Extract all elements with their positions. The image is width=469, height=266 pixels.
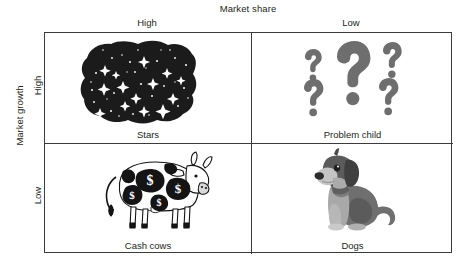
- x-axis-label-low: Low: [250, 17, 452, 28]
- question-marks-icon: [299, 36, 409, 126]
- y-axis-title: Market growth: [14, 61, 25, 171]
- quadrant-label-cash-cows: Cash cows: [45, 240, 251, 251]
- quadrant-problem-child[interactable]: Problem child: [252, 33, 453, 143]
- quadrant-label-stars: Stars: [45, 129, 251, 140]
- bcg-matrix: Market share High Low Market growth High…: [0, 0, 469, 266]
- svg-text:$: $: [175, 181, 182, 196]
- y-axis-label-low: Low: [32, 156, 43, 236]
- quadrant-dogs[interactable]: Dogs: [252, 145, 453, 254]
- x-axis-title: Market share: [44, 3, 452, 14]
- quadrant-label-problem-child: Problem child: [252, 129, 453, 140]
- quadrant-label-dogs: Dogs: [252, 240, 453, 251]
- svg-text:$: $: [129, 189, 135, 201]
- starry-night-blob-icon: [78, 38, 204, 126]
- sitting-dog-icon: [310, 146, 402, 236]
- quadrant-cash-cows[interactable]: $ $ $ $ Cash cows: [45, 145, 251, 254]
- y-axis-label-high: High: [32, 46, 43, 126]
- matrix-grid: Stars: [44, 32, 452, 253]
- x-axis-label-high: High: [44, 17, 250, 28]
- dollar-spotted-cow-icon: $ $ $ $: [99, 147, 217, 235]
- svg-text:$: $: [157, 197, 162, 208]
- svg-text:$: $: [147, 173, 154, 188]
- quadrant-stars[interactable]: Stars: [45, 33, 251, 143]
